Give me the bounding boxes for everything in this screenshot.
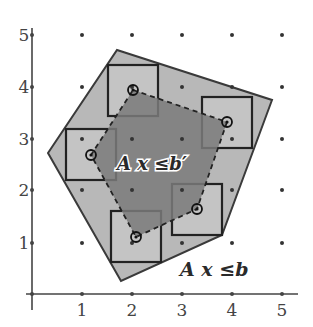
y-tick-4: 4 [19,77,30,97]
outer-polytope-label: A x ≤b [178,258,249,280]
x-tick-1: 1 [77,300,88,320]
x-tick-4: 4 [227,300,238,320]
y-tick-2: 2 [19,180,30,200]
x-tick-5: 5 [277,300,288,320]
inner-polytope-label: A x ≤b′ [115,153,187,174]
x-tick-2: 2 [127,300,138,320]
y-tick-5: 5 [19,25,30,45]
y-tick-1: 1 [19,233,30,253]
x-tick-3: 3 [177,300,188,320]
polytope-diagram: 1 2 3 4 5 5 4 3 2 1 A x ≤b′ A x ≤b [0,0,313,327]
y-tick-3: 3 [19,129,30,149]
